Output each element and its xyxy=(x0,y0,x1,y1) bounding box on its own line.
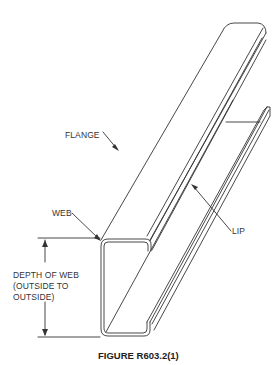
depth-of-web-label-line1: DEPTH OF WEB xyxy=(13,270,79,280)
depth-of-web-label-line2: (OUTSIDE TO xyxy=(13,281,69,291)
flange-shape xyxy=(101,23,266,250)
lip-label: LIP xyxy=(232,226,245,236)
figure-caption: FIGURE R603.2(1) xyxy=(98,350,179,361)
flange-arrowhead-icon xyxy=(112,144,119,151)
dimension-bottom-arrow-icon xyxy=(42,329,48,336)
web-shape xyxy=(101,100,233,336)
c-section-drawing xyxy=(0,0,280,365)
lip-shape xyxy=(147,107,270,330)
flange-label: FLANGE xyxy=(65,130,100,140)
dimension-top-arrow-icon xyxy=(42,240,48,247)
lip-arrowhead-icon xyxy=(191,184,198,190)
web-label: WEB xyxy=(52,208,72,218)
depth-of-web-label-line3: OUTSIDE) xyxy=(13,292,54,302)
